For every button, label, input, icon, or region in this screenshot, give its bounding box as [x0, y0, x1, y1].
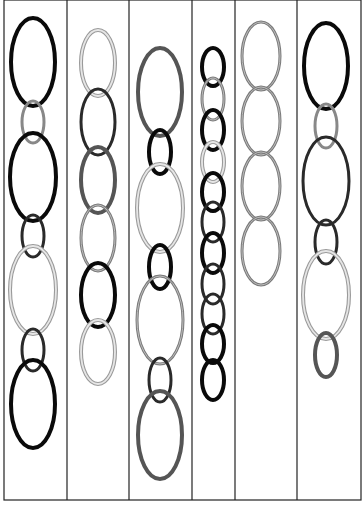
chain-link-oval [315, 220, 337, 264]
chain-link-oval [138, 48, 182, 136]
columns [10, 18, 349, 479]
chain-link-oval [10, 133, 56, 221]
chain-link-oval [11, 18, 55, 106]
chain-diagram [0, 0, 364, 507]
chain-link-oval [242, 217, 280, 285]
chain-link-oval [81, 147, 115, 213]
column-5 [242, 22, 280, 285]
chain-link-oval [81, 30, 115, 96]
column-1 [10, 18, 56, 448]
chain-link-oval [202, 48, 224, 86]
chain-link-oval [304, 23, 348, 109]
chain-link-oval [81, 263, 115, 327]
chain-link-oval [242, 152, 280, 220]
chain-link-oval [303, 137, 349, 225]
chain-link-oval [10, 246, 56, 334]
chain-link-oval [138, 391, 182, 479]
chain-link-oval [11, 360, 55, 448]
chain-link-oval [137, 164, 183, 252]
chain-link-oval [242, 87, 280, 155]
column-2 [81, 30, 115, 384]
column-3 [137, 48, 183, 479]
chain-link-oval [202, 325, 224, 363]
chain-link-oval [202, 360, 224, 400]
chain-link-oval [242, 22, 280, 90]
diagram-canvas [0, 0, 364, 507]
column-6 [303, 23, 349, 377]
column-4 [202, 48, 224, 400]
chain-link-oval [81, 320, 115, 384]
